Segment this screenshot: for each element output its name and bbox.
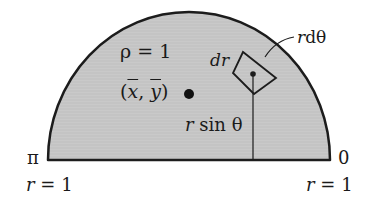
y-bar: y <box>150 80 161 102</box>
radius-right-label: r = 1 <box>306 176 353 194</box>
radius-left-label: r = 1 <box>26 176 73 194</box>
r-dtheta-r: r <box>297 27 305 47</box>
dr-label: dr <box>210 52 229 69</box>
density-text: ρ = 1 <box>120 40 171 62</box>
centroid-dot <box>184 89 194 99</box>
dr-text: dr <box>210 50 229 70</box>
semicircle-centroid-diagram: ρ = 1 (x, y) dr rdθ r sin θ π 0 r = 1 r … <box>0 0 377 204</box>
angle-pi-label: π <box>27 149 39 167</box>
r-sin-rest: sin θ <box>194 114 243 135</box>
semicircle-region <box>48 12 330 160</box>
radius-left-r: r <box>26 174 35 195</box>
comma: , <box>138 80 150 102</box>
pi-text: π <box>27 147 39 168</box>
r-dtheta-label: rdθ <box>297 29 326 46</box>
zero-text: 0 <box>338 147 349 168</box>
density-label: ρ = 1 <box>120 42 171 61</box>
angle-zero-label: 0 <box>338 149 349 167</box>
paren-close: ) <box>161 80 168 102</box>
r-dtheta-rest: dθ <box>305 27 326 47</box>
radius-left-rest: = 1 <box>35 174 73 195</box>
r-sin-r: r <box>185 114 194 135</box>
radius-right-r: r <box>306 174 315 195</box>
centroid-label: (x, y) <box>120 82 168 101</box>
radius-right-rest: = 1 <box>315 174 353 195</box>
r-sin-theta-label: r sin θ <box>185 116 242 134</box>
x-bar: x <box>127 80 138 102</box>
